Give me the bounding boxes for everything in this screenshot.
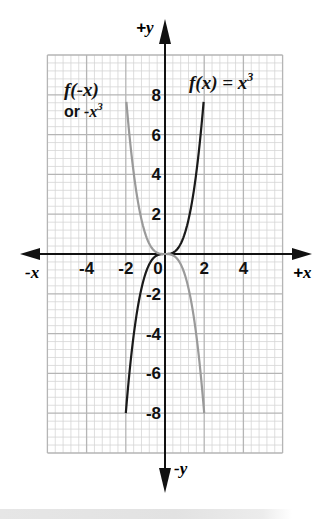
y-tick-label: 2 [152, 205, 161, 224]
y-axis-up-arrow-icon [159, 19, 171, 44]
x-tick-label: 2 [199, 259, 208, 278]
y-tick-label: 6 [152, 126, 161, 145]
x-tick-label: 0 [153, 259, 162, 278]
x-tick-label: -4 [79, 259, 95, 278]
x-tick-label: -2 [118, 259, 133, 278]
x-tick-label: 4 [239, 259, 249, 278]
y-tick-label: 4 [152, 165, 162, 184]
label-f-neg-x: f(-x) [64, 79, 99, 101]
bottom-divider-bar [0, 509, 292, 519]
y-tick-label: -4 [146, 325, 162, 344]
x-negative-label: -x [25, 263, 40, 282]
y-tick-label: 8 [152, 86, 161, 105]
label-or-neg-x-cubed: or -x3 [64, 100, 103, 120]
function-graph: -4-2024 8642-2-4-6-8 +y -y -x +x f(x) = … [0, 0, 335, 527]
y-tick-label: -6 [146, 364, 161, 383]
x-axis-right-arrow-icon [292, 248, 312, 260]
y-tick-label: -2 [146, 285, 161, 304]
label-f-x-cubed: f(x) = x3 [189, 70, 253, 94]
x-axis-left-arrow-icon [20, 248, 40, 260]
y-axis-down-arrow-icon [159, 468, 171, 493]
y-tick-label: -8 [146, 404, 161, 423]
x-positive-label: +x [293, 263, 312, 282]
y-positive-label: +y [136, 18, 154, 37]
y-negative-label: -y [174, 459, 188, 478]
